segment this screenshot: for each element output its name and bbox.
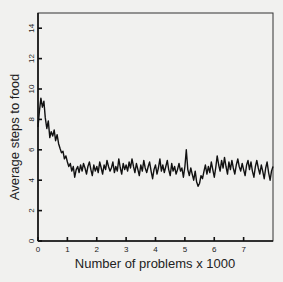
- y-tick-label: 12: [27, 54, 36, 63]
- y-tick-label: 2: [27, 208, 36, 213]
- x-axis-label: Number of problems x 1000: [75, 256, 235, 271]
- x-tick-label: 4: [153, 245, 158, 254]
- chart-background: [0, 0, 283, 282]
- y-axis-label: Average steps to food: [7, 74, 22, 200]
- x-tick-label: 0: [36, 245, 41, 254]
- x-tick-label: 7: [241, 245, 246, 254]
- y-tick-label: 6: [27, 147, 36, 152]
- x-tick-label: 3: [124, 245, 129, 254]
- y-tick-label: 0: [27, 238, 36, 243]
- x-tick-label: 1: [65, 245, 70, 254]
- x-tick-label: 6: [212, 245, 217, 254]
- x-tick-label: 5: [183, 245, 188, 254]
- y-tick-label: 14: [27, 23, 36, 32]
- y-tick-label: 8: [27, 117, 36, 122]
- line-chart: 02468101214 01234567 Number of problems …: [0, 0, 283, 282]
- y-tick-label: 10: [27, 84, 36, 93]
- x-tick-label: 2: [95, 245, 100, 254]
- y-tick-label: 4: [27, 177, 36, 182]
